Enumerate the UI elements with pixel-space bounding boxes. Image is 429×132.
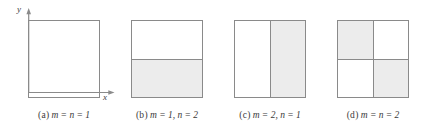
- panel-c-cell-0: [235, 21, 270, 97]
- panel-d-box: [337, 20, 409, 98]
- panel-a-box: [28, 20, 100, 98]
- panel-d-cell-2: [338, 59, 373, 97]
- caption-c-tag: (c): [239, 110, 250, 120]
- panel-c-cell-1: [270, 21, 305, 97]
- caption-c-math: m = 2, n = 1: [253, 110, 301, 120]
- caption-d: (d)m = n = 2: [313, 110, 429, 121]
- caption-d-tag: (d): [347, 110, 359, 120]
- caption-b-tag: (b): [136, 110, 148, 120]
- panel-b-cell-0: [132, 21, 202, 59]
- caption-c: (c)m = 2, n = 1: [210, 110, 330, 121]
- caption-a: (a)m = n = 1: [4, 110, 124, 121]
- panel-d: [337, 20, 409, 98]
- caption-a-math: m = n = 1: [51, 110, 90, 120]
- panel-a: [28, 20, 100, 98]
- panel-b-cell-1: [132, 59, 202, 97]
- caption-d-math: m = n = 2: [361, 110, 400, 120]
- panel-d-cell-1: [373, 21, 408, 59]
- x-axis-arrowhead: [108, 90, 114, 95]
- panel-c-box: [234, 20, 306, 98]
- panel-d-cell-3: [373, 59, 408, 97]
- panel-d-cell-0: [338, 21, 373, 59]
- caption-b: (b)m = 1, n = 2: [107, 110, 227, 121]
- caption-a-tag: (a): [38, 110, 49, 120]
- panel-b-box: [131, 20, 203, 98]
- panel-a-cell-0: [29, 21, 99, 97]
- y-axis-arrowhead: [26, 8, 31, 14]
- x-axis-label: x: [103, 93, 107, 102]
- panel-c: [234, 20, 306, 98]
- panel-b: [131, 20, 203, 98]
- y-axis-label: y: [17, 5, 21, 14]
- nodal-line-figure: y x (a)m = n = 1 (b)m = 1, n = 2 (c)m = …: [0, 0, 429, 132]
- caption-b-math: m = 1, n = 2: [150, 110, 198, 120]
